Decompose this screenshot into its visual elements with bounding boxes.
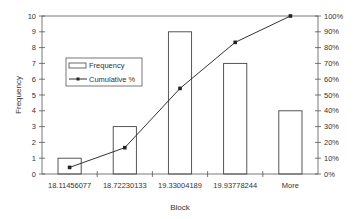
bar-5 bbox=[279, 111, 302, 174]
y2-tick-label: 0% bbox=[324, 170, 335, 179]
y-axis-right: 0%10%20%30%40%50%60%70%80%90%100% bbox=[315, 12, 344, 179]
y2-tick-label: 70% bbox=[324, 59, 339, 68]
legend-marker-square bbox=[77, 78, 80, 81]
y-tick-label: 3 bbox=[32, 122, 36, 131]
y2-tick-label: 100% bbox=[324, 12, 344, 21]
y-tick-label: 1 bbox=[32, 154, 36, 163]
frequency-bars bbox=[58, 32, 302, 174]
y-tick-label: 4 bbox=[32, 106, 36, 115]
y-tick-label: 7 bbox=[32, 59, 36, 68]
y-tick-label: 0 bbox=[32, 170, 36, 179]
y2-tick-label: 90% bbox=[324, 27, 339, 36]
y2-tick-label: 20% bbox=[324, 138, 339, 147]
x-tick-label: 19.33004189 bbox=[158, 181, 202, 190]
y2-tick-label: 60% bbox=[324, 75, 339, 84]
bar-4 bbox=[224, 63, 247, 174]
legend-label-cumulative: Cumulative % bbox=[89, 75, 136, 84]
cumulative-marker-5 bbox=[289, 14, 293, 18]
x-axis-title: Block bbox=[170, 203, 191, 212]
y2-tick-label: 50% bbox=[324, 91, 339, 100]
y2-tick-label: 30% bbox=[324, 122, 339, 131]
cumulative-marker-1 bbox=[68, 166, 72, 170]
y2-tick-label: 80% bbox=[324, 43, 339, 52]
x-axis: 18.1145607718.7223013319.3300418919.9377… bbox=[42, 171, 318, 190]
y-tick-label: 5 bbox=[32, 91, 36, 100]
legend-bar-swatch bbox=[69, 63, 86, 68]
y-tick-label: 6 bbox=[32, 75, 36, 84]
pareto-histogram-chart: 012345678910 0%10%20%30%40%50%60%70%80%9… bbox=[0, 0, 359, 219]
cumulative-marker-2 bbox=[123, 146, 127, 150]
cumulative-marker-3 bbox=[178, 87, 182, 91]
y-tick-label: 9 bbox=[32, 27, 36, 36]
cumulative-marker-4 bbox=[233, 41, 237, 45]
bar-3 bbox=[168, 32, 191, 174]
x-tick-label: 18.11456077 bbox=[48, 181, 91, 190]
x-tick-label: 18.72230133 bbox=[103, 181, 147, 190]
legend-label-frequency: Frequency bbox=[89, 61, 125, 70]
x-tick-label: More bbox=[282, 181, 299, 190]
y-tick-label: 8 bbox=[32, 43, 36, 52]
x-tick-label: 19.93778244 bbox=[213, 181, 257, 190]
y2-tick-label: 10% bbox=[324, 154, 339, 163]
y-tick-label: 2 bbox=[32, 138, 36, 147]
y-tick-label: 10 bbox=[28, 12, 36, 21]
y-axis-title: Frequency bbox=[14, 76, 23, 114]
y-axis-left: 012345678910 bbox=[28, 12, 45, 179]
y2-tick-label: 40% bbox=[324, 106, 339, 115]
legend: Frequency Cumulative % bbox=[66, 58, 142, 86]
